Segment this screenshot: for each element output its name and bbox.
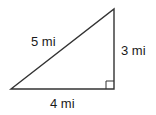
horizontal-leg-label: 4 mi xyxy=(50,97,75,110)
right-triangle xyxy=(11,9,114,89)
vertical-leg-label: 3 mi xyxy=(121,44,146,57)
right-angle-marker xyxy=(106,81,114,89)
hypotenuse-label: 5 mi xyxy=(31,35,56,48)
